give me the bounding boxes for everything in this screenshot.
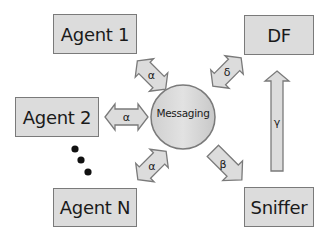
double-arrow-icon: α [105,104,148,130]
diagram-canvas: α α δ α β γ [0,0,325,238]
edge-label-alpha-n: α [148,160,155,173]
edge-label-alpha-1: α [148,69,155,82]
edge-label-delta: δ [224,66,231,79]
arrow-up-icon: γ [265,71,289,171]
edge-label-beta: β [219,158,226,171]
edge-label-alpha-2: α [123,111,130,124]
arrow-right-down-icon [203,141,252,190]
ellipsis-dots-icon [71,145,91,175]
edge-label-gamma: γ [274,116,281,129]
messaging-label: Messaging [151,107,215,119]
